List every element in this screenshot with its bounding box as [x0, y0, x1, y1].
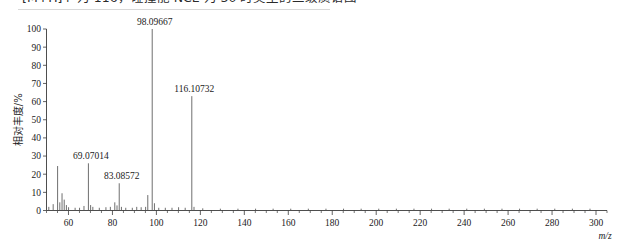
y-axis-tick-label: 10 [32, 188, 42, 198]
y-axis-ticks [43, 29, 47, 211]
x-axis-tick-label: 100 [149, 218, 164, 228]
peak-label: 116.10732 [174, 84, 214, 94]
x-axis-tick-label: 240 [457, 218, 472, 228]
y-axis-tick-label: 0 [36, 206, 41, 216]
y-axis-tick-label: 50 [32, 115, 42, 125]
peak-labels: 69.0701483.0857298.09667116.10732 [73, 17, 214, 181]
y-axis-tick-labels: 0102030405060708090100 [27, 24, 42, 216]
x-axis-tick-label: 60 [64, 218, 74, 228]
x-axis-tick-label: 200 [369, 218, 384, 228]
y-axis-title: 相对丰度/% [12, 93, 24, 146]
y-axis-tick-label: 60 [32, 97, 42, 107]
y-axis-tick-label: 80 [32, 61, 42, 71]
axis-titles: m/z相对丰度/% [12, 93, 612, 240]
x-axis-tick-labels: 6080100120140160180200220240260280300 [64, 218, 604, 228]
x-axis-tick-label: 120 [193, 218, 208, 228]
y-axis-tick-label: 20 [32, 170, 42, 180]
y-axis-tick-label: 70 [32, 79, 42, 89]
x-axis-tick-label: 80 [108, 218, 118, 228]
x-axis-ticks [47, 211, 608, 216]
y-axis-tick-label: 40 [32, 133, 42, 143]
x-axis-tick-label: 280 [545, 218, 560, 228]
x-axis-tick-label: 220 [413, 218, 428, 228]
spectrum-peaks [49, 29, 590, 211]
x-axis-title: m/z [598, 231, 612, 241]
x-axis-tick-label: 300 [589, 218, 604, 228]
y-axis-tick-label: 100 [27, 24, 42, 34]
y-axis-tick-label: 30 [32, 151, 42, 161]
mass-spectrum-chart: 0102030405060708090100 60801001201401601… [0, 0, 639, 247]
x-axis-tick-label: 260 [501, 218, 516, 228]
peak-label: 98.09667 [137, 17, 173, 27]
x-axis-tick-label: 160 [281, 218, 296, 228]
chart-canvas: 0102030405060708090100 60801001201401601… [0, 0, 639, 247]
peak-label: 83.08572 [104, 171, 140, 181]
y-axis-tick-label: 90 [32, 43, 42, 53]
peak-label: 69.07014 [73, 151, 109, 161]
chart-axes [47, 29, 608, 211]
x-axis-tick-label: 140 [237, 218, 252, 228]
x-axis-tick-label: 180 [325, 218, 340, 228]
